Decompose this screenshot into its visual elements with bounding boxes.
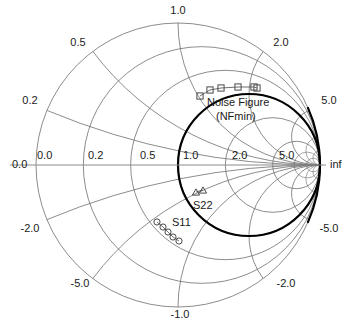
axis-tick-label-real-2: 0.2: [88, 149, 103, 161]
axis-tick-label-outer-1: 0.5: [70, 36, 85, 48]
axis-tick-label-outer-5: -2.0: [21, 222, 40, 234]
nf-label-line1: Noise Figure: [207, 96, 269, 108]
s11-label: S11: [172, 216, 191, 228]
axis-tick-label-outer-7: -5.0: [71, 277, 90, 289]
axis-tick-label-real-3: 0.5: [140, 149, 155, 161]
axis-tick-label-real-0: 0.0: [12, 158, 27, 170]
axis-tick-label-outer-3: 0.2: [22, 94, 37, 106]
axis-tick-label-outer-6: -5.0: [320, 222, 339, 234]
axis-tick-label-real-6: 5.0: [279, 149, 294, 161]
smith-chart-canvas: 0.00.00.20.51.02.05.0inf1.00.52.00.25.0-…: [0, 0, 355, 329]
nf-label-line2: (NFmin): [216, 110, 256, 122]
axis-tick-label-real-4: 1.0: [183, 149, 198, 161]
axis-tick-label-outer-0: 1.0: [170, 4, 185, 16]
axis-tick-label-outer-4: 5.0: [321, 94, 336, 106]
axis-tick-label-real-1: 0.0: [37, 149, 52, 161]
s22-label: S22: [193, 199, 213, 211]
axis-tick-label-outer-2: 2.0: [273, 36, 288, 48]
smith-chart-figure: 0.00.00.20.51.02.05.0inf1.00.52.00.25.0-…: [0, 0, 355, 329]
axis-tick-label-real-5: 2.0: [232, 149, 247, 161]
axis-tick-label-outer-9: -1.0: [171, 308, 190, 320]
axis-tick-label-real-7: inf: [330, 158, 343, 170]
axis-tick-label-outer-8: -2.0: [277, 277, 296, 289]
